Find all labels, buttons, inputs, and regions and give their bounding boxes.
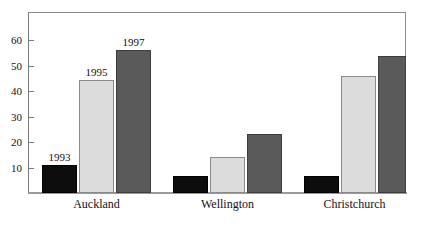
y-tick-20 [28,142,34,143]
series-label-1997: 1997 [116,37,151,48]
y-tick-label-50: 50 [0,61,22,72]
y-tick-60 [28,40,34,41]
bar-auckland-1995 [79,80,114,193]
y-tick-40 [28,91,34,92]
bar-wellington-1995 [210,157,245,193]
bar-christchurch-1993 [304,176,339,193]
bar-christchurch-1997 [378,56,406,193]
bar-christchurch-1995 [341,76,376,193]
bar-auckland-1993 [42,165,77,193]
y-tick-label-60: 60 [0,35,22,46]
y-tick-10 [28,168,34,169]
y-tick-label-30: 30 [0,112,22,123]
bar-chart: 60 50 40 30 20 10 1993 1995 1997 Aucklan… [0,0,424,235]
y-tick-label-40: 40 [0,86,22,97]
series-label-1993: 1993 [42,152,77,163]
y-tick-label-10: 10 [0,163,22,174]
series-label-1995: 1995 [79,67,114,78]
category-label-christchurch: Christchurch [300,198,409,210]
y-tick-label-20: 20 [0,137,22,148]
y-tick-30 [28,117,34,118]
category-label-auckland: Auckland [42,198,151,210]
bar-wellington-1993 [173,176,208,193]
y-tick-50 [28,66,34,67]
bar-wellington-1997 [247,134,282,193]
bar-auckland-1997 [116,50,151,193]
category-label-wellington: Wellington [173,198,282,210]
